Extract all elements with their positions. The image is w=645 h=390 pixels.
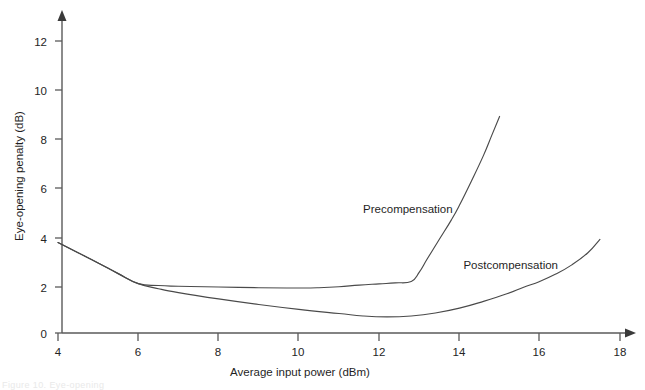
- x-axis: 4 6 8 10 12 14 16 18 Average input power…: [55, 329, 636, 379]
- series-line-postcompensation: [58, 239, 600, 317]
- y-tick-label: 10: [34, 85, 47, 97]
- x-tick-label: 12: [373, 346, 386, 358]
- y-axis-ticks: [55, 41, 62, 333]
- y-axis-title: Eye-opening penalty (dB): [13, 111, 25, 241]
- x-axis-title: Average input power (dBm): [230, 366, 370, 378]
- series-label-precompensation: Precompensation: [363, 203, 453, 215]
- series-annotations: Precompensation Postcompensation: [363, 203, 558, 272]
- x-tick-label: 4: [55, 346, 62, 358]
- x-tick-label: 10: [292, 346, 305, 358]
- y-tick-label: 4: [41, 233, 48, 245]
- x-axis-arrow-icon: [625, 329, 636, 338]
- x-tick-label: 14: [453, 346, 466, 358]
- x-tick-label: 16: [533, 346, 546, 358]
- x-tick-label: 18: [614, 346, 627, 358]
- x-axis-ticks: [58, 333, 620, 341]
- x-axis-tick-labels: 4 6 8 10 12 14 16 18: [55, 346, 627, 358]
- series-label-postcompensation: Postcompensation: [463, 259, 558, 271]
- y-tick-label: 6: [41, 183, 47, 195]
- caption-fragment: Figure 10. Eye-opening: [2, 380, 104, 390]
- y-tick-label: 8: [41, 134, 47, 146]
- x-tick-label: 6: [135, 346, 141, 358]
- x-tick-label: 8: [215, 346, 221, 358]
- y-tick-label: 12: [34, 36, 47, 48]
- y-tick-label: 0: [41, 328, 47, 340]
- y-axis: 12 10 8 6 4 2 0 Eye-opening penalty (dB): [13, 10, 67, 340]
- y-axis-tick-labels: 12 10 8 6 4 2 0: [34, 36, 47, 340]
- y-tick-label: 2: [41, 282, 47, 294]
- y-axis-arrow-icon: [58, 10, 67, 21]
- data-series-group: [58, 116, 600, 317]
- eye-opening-penalty-chart: 12 10 8 6 4 2 0 Eye-opening penalty (dB): [0, 0, 645, 390]
- figure-root: 12 10 8 6 4 2 0 Eye-opening penalty (dB): [0, 0, 645, 390]
